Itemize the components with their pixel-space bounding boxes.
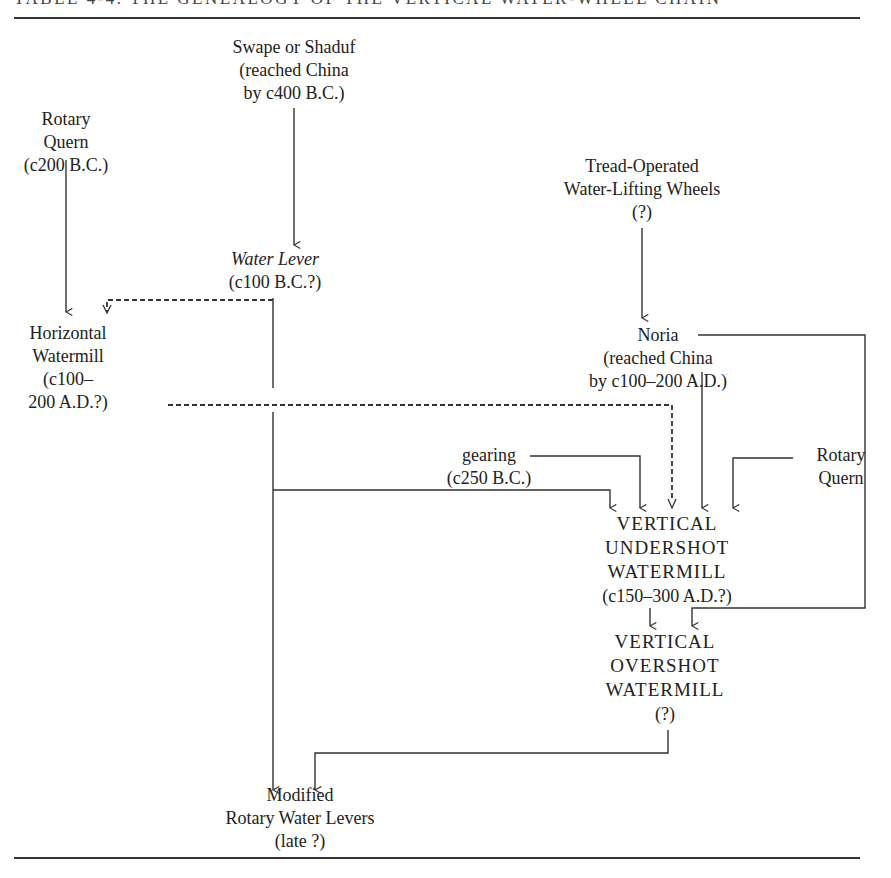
node-swape-shaduf: Swape or Shaduf (reached China by c400 B… (194, 36, 394, 105)
node-label: gearing (434, 444, 544, 467)
node-noria: Noria (reached China by c100–200 A.D.) (578, 324, 738, 393)
edge-quern-undershot (733, 458, 793, 508)
node-label: Water Lever (220, 248, 330, 271)
node-label: UNDERSHOT (582, 536, 752, 560)
node-label: Rotary (793, 444, 889, 467)
edge-overshot-modified (315, 730, 668, 790)
node-label: (?) (590, 702, 740, 726)
node-water-lever: Water Lever (c100 B.C.?) (220, 248, 330, 294)
edge-gearing-undershot (530, 456, 640, 508)
node-rotary-quern-right: Rotary Quern (793, 444, 889, 490)
node-label: Quern (6, 131, 126, 154)
node-vertical-undershot-watermill: VERTICAL UNDERSHOT WATERMILL (c150–300 A… (582, 512, 752, 608)
node-label: (c250 B.C.) (434, 467, 544, 490)
node-label: Modified (200, 784, 400, 807)
node-label: OVERSHOT (590, 654, 740, 678)
node-label: (c100– (8, 368, 128, 391)
node-modified-rotary-water-levers: Modified Rotary Water Levers (late ?) (200, 784, 400, 853)
node-label: Watermill (8, 345, 128, 368)
node-label: (late ?) (200, 830, 400, 853)
node-label: (c100 B.C.?) (220, 271, 330, 294)
node-label: (reached China (578, 347, 738, 370)
connector-lines (0, 0, 891, 878)
node-label: Horizontal (8, 322, 128, 345)
node-label: (c150–300 A.D.?) (582, 584, 752, 608)
node-label: Water-Lifting Wheels (552, 178, 732, 201)
node-label: WATERMILL (582, 560, 752, 584)
node-label: Noria (578, 324, 738, 347)
node-gearing: gearing (c250 B.C.) (434, 444, 544, 490)
node-label: by c100–200 A.D.) (578, 370, 738, 393)
node-label: VERTICAL (590, 630, 740, 654)
node-horizontal-watermill: Horizontal Watermill (c100– 200 A.D.?) (8, 322, 128, 414)
node-label: Rotary (6, 108, 126, 131)
edge-horizontal-undershot-dashed (168, 405, 672, 500)
edge-waterlever-horizontal-dashed (107, 300, 273, 312)
node-label: Rotary Water Levers (200, 807, 400, 830)
node-tread-wheels: Tread-Operated Water-Lifting Wheels (?) (552, 155, 732, 224)
node-label: (c200 B.C.) (6, 154, 126, 177)
node-label: Tread-Operated (552, 155, 732, 178)
node-rotary-quern-top: Rotary Quern (c200 B.C.) (6, 108, 126, 177)
node-label: Swape or Shaduf (194, 36, 394, 59)
node-label: WATERMILL (590, 678, 740, 702)
node-label: 200 A.D.?) (8, 391, 128, 414)
node-label: by c400 B.C.) (194, 82, 394, 105)
node-label: VERTICAL (582, 512, 752, 536)
node-label: Quern (793, 467, 889, 490)
node-label: (?) (552, 201, 732, 224)
node-vertical-overshot-watermill: VERTICAL OVERSHOT WATERMILL (?) (590, 630, 740, 726)
edge-waterlever-undershot (273, 490, 610, 508)
node-label: (reached China (194, 59, 394, 82)
